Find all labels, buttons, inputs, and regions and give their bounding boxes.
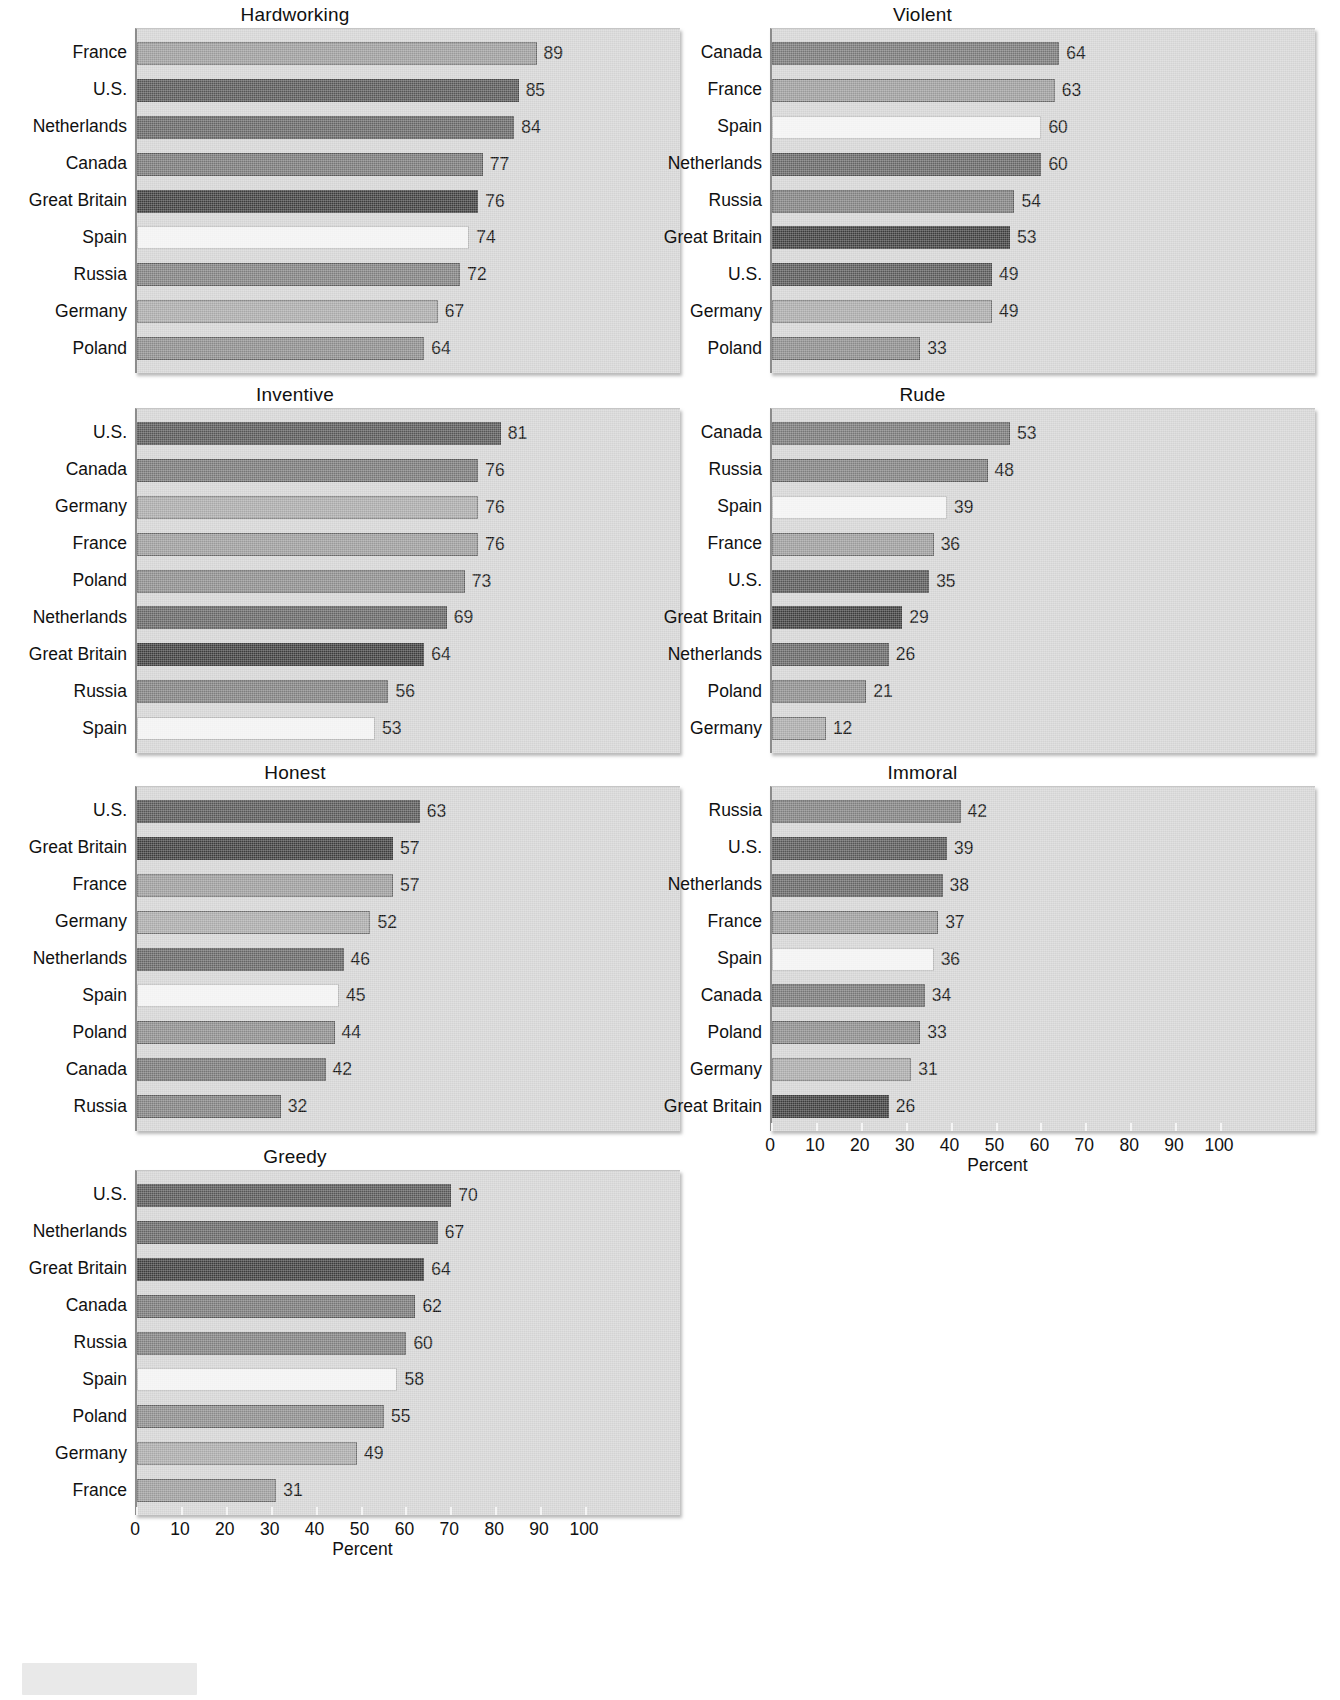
category-label: U.S. bbox=[620, 829, 770, 866]
panel-title: Rude bbox=[620, 382, 1225, 408]
plot-area: 817676767369645653 bbox=[135, 408, 680, 753]
bar bbox=[137, 116, 514, 139]
bar bbox=[772, 496, 947, 519]
category-label: Germany bbox=[620, 1051, 770, 1088]
category-label: Netherlands bbox=[620, 866, 770, 903]
table-row: 74 bbox=[137, 219, 680, 256]
bar bbox=[772, 837, 947, 860]
category-axis-labels: RussiaU.S.NetherlandsFranceSpainCanadaPo… bbox=[620, 786, 770, 1131]
table-row: 76 bbox=[137, 526, 680, 563]
category-label: Russia bbox=[620, 451, 770, 488]
table-row: 35 bbox=[772, 563, 1315, 600]
category-label: Germany bbox=[0, 1435, 135, 1472]
bar-value-label: 77 bbox=[490, 154, 509, 175]
category-label: Spain bbox=[0, 710, 135, 747]
category-label: Germany bbox=[0, 293, 135, 330]
x-axis-tick-mark bbox=[771, 1123, 773, 1131]
panel-title: Violent bbox=[620, 2, 1225, 28]
table-row: 85 bbox=[137, 72, 680, 109]
category-label: Great Britain bbox=[620, 599, 770, 636]
bar bbox=[137, 1258, 424, 1281]
bar-value-label: 89 bbox=[544, 43, 563, 64]
table-row: 58 bbox=[137, 1361, 680, 1398]
x-axis-tick-mark bbox=[996, 1123, 998, 1131]
bar bbox=[137, 1332, 406, 1355]
category-label: Netherlands bbox=[0, 1213, 135, 1250]
x-axis-tick-label: 100 bbox=[569, 1519, 598, 1540]
bar bbox=[137, 1021, 335, 1044]
category-label: Canada bbox=[620, 977, 770, 1014]
category-label: Germany bbox=[620, 293, 770, 330]
bar-value-label: 42 bbox=[968, 801, 987, 822]
category-label: Germany bbox=[620, 710, 770, 747]
table-row: 49 bbox=[772, 293, 1315, 330]
category-axis-labels: FranceU.S.NetherlandsCanadaGreat Britain… bbox=[0, 28, 135, 373]
bar bbox=[772, 337, 920, 360]
bar bbox=[137, 263, 460, 286]
bar-value-label: 34 bbox=[932, 985, 951, 1006]
bar bbox=[772, 1095, 889, 1118]
table-row: 37 bbox=[772, 904, 1315, 941]
bar bbox=[137, 1295, 415, 1318]
x-axis-tick-mark bbox=[1085, 1123, 1087, 1131]
table-row: 42 bbox=[137, 1051, 680, 1088]
panel-immoral: ImmoralRussiaU.S.NetherlandsFranceSpainC… bbox=[620, 760, 1315, 1177]
bar bbox=[772, 263, 992, 286]
table-row: 60 bbox=[137, 1325, 680, 1362]
category-label: U.S. bbox=[0, 414, 135, 451]
table-row: 32 bbox=[137, 1088, 680, 1125]
plot-area: 706764626058554931 bbox=[135, 1170, 680, 1515]
category-label: Canada bbox=[0, 451, 135, 488]
bar bbox=[137, 533, 478, 556]
x-axis-tick-label: 10 bbox=[805, 1135, 824, 1156]
x-axis-tick-mark bbox=[136, 1507, 138, 1515]
bar bbox=[137, 190, 478, 213]
panel-hardworking: HardworkingFranceU.S.NetherlandsCanadaGr… bbox=[0, 2, 680, 373]
x-axis-tick-label: 20 bbox=[850, 1135, 869, 1156]
bar-value-label: 36 bbox=[941, 534, 960, 555]
x-axis-tick-label: 30 bbox=[895, 1135, 914, 1156]
category-label: Poland bbox=[0, 1398, 135, 1435]
x-axis-tick-mark bbox=[181, 1507, 183, 1515]
category-label: Spain bbox=[620, 940, 770, 977]
category-label: Netherlands bbox=[0, 940, 135, 977]
bar-value-label: 64 bbox=[431, 338, 450, 359]
bar bbox=[137, 42, 537, 65]
table-row: 12 bbox=[772, 710, 1315, 747]
category-label: Canada bbox=[620, 414, 770, 451]
x-axis-tick-label: 60 bbox=[395, 1519, 414, 1540]
table-row: 53 bbox=[772, 415, 1315, 452]
bar bbox=[772, 1058, 911, 1081]
plot-area: 898584777674726764 bbox=[135, 28, 680, 373]
table-row: 76 bbox=[137, 452, 680, 489]
category-axis-labels: U.S.CanadaGermanyFrancePolandNetherlands… bbox=[0, 408, 135, 753]
table-row: 26 bbox=[772, 1088, 1315, 1125]
bar-value-label: 60 bbox=[413, 1333, 432, 1354]
table-row: 33 bbox=[772, 330, 1315, 367]
bar-value-label: 76 bbox=[485, 191, 504, 212]
bar bbox=[772, 984, 925, 1007]
table-row: 64 bbox=[137, 636, 680, 673]
x-axis-tick-mark bbox=[1175, 1123, 1177, 1131]
category-label: Great Britain bbox=[620, 1088, 770, 1125]
bar-value-label: 85 bbox=[526, 80, 545, 101]
table-row: 36 bbox=[772, 526, 1315, 563]
table-row: 26 bbox=[772, 636, 1315, 673]
x-axis-tick-mark bbox=[540, 1507, 542, 1515]
bar bbox=[772, 116, 1041, 139]
x-axis-tick-label: 0 bbox=[765, 1135, 775, 1156]
bar bbox=[772, 874, 943, 897]
bar-value-label: 39 bbox=[954, 497, 973, 518]
bar-group: 646360605453494933 bbox=[772, 29, 1315, 373]
bar bbox=[772, 800, 961, 823]
table-row: 53 bbox=[137, 710, 680, 747]
plot-wrapper: RussiaU.S.NetherlandsFranceSpainCanadaPo… bbox=[620, 786, 1315, 1131]
table-row: 46 bbox=[137, 941, 680, 978]
category-label: France bbox=[0, 34, 135, 71]
bar-value-label: 73 bbox=[472, 571, 491, 592]
bar bbox=[772, 606, 902, 629]
category-label: France bbox=[620, 903, 770, 940]
x-axis-tick-mark bbox=[906, 1123, 908, 1131]
table-row: 64 bbox=[137, 330, 680, 367]
bar bbox=[137, 911, 370, 934]
